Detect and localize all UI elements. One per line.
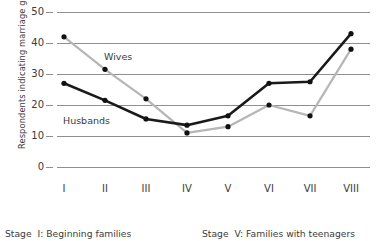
data-point-wives-VII (307, 113, 312, 118)
data-point-wives-VI (266, 102, 271, 107)
caption-stage-i: StageI: Beginning families (5, 228, 131, 239)
data-point-wives-IV (184, 130, 189, 135)
series-label-husbands: Husbands (63, 115, 110, 126)
caption-left-text: I: Beginning families (38, 228, 132, 239)
data-point-wives-VIII (348, 47, 353, 52)
data-point-husbands-III (143, 116, 148, 121)
x-tick-label-vi: VI (254, 184, 284, 194)
data-point-wives-I (61, 34, 66, 39)
plot-area: 50 40 30 20 10 0 I II III IV V VI VII VI… (57, 12, 370, 178)
y-tickmark-50 (46, 12, 53, 13)
series-label-wives: Wives (104, 51, 132, 62)
series-line-husbands (64, 34, 351, 125)
data-point-husbands-V (225, 113, 230, 118)
x-tick-label-iii: III (131, 184, 161, 194)
y-tickmark-30 (46, 74, 53, 75)
y-tick-label-20: 20 (4, 100, 44, 110)
caption-stage-v: StageV: Families with teenagers (202, 228, 355, 239)
data-point-husbands-II (102, 98, 107, 103)
caption-right-stage-word: Stage (202, 228, 229, 239)
x-tick-label-viii: VIII (336, 184, 366, 194)
y-tick-label-40: 40 (4, 38, 44, 48)
x-tick-label-v: V (213, 184, 243, 194)
y-tickmark-10 (46, 136, 53, 137)
y-tick-label-0: 0 (4, 162, 44, 172)
x-tick-label-i: I (49, 184, 79, 194)
data-point-wives-II (102, 67, 107, 72)
data-point-husbands-IV (184, 123, 189, 128)
x-tick-label-ii: II (90, 184, 120, 194)
x-tick-label-vii: VII (295, 184, 325, 194)
data-point-husbands-I (61, 81, 66, 86)
series-lines (57, 12, 370, 178)
x-tick-label-iv: IV (172, 184, 202, 194)
y-tickmark-0 (46, 167, 53, 168)
y-tickmark-20 (46, 105, 53, 106)
data-point-wives-V (225, 124, 230, 129)
y-tick-label-10: 10 (4, 131, 44, 141)
data-point-husbands-VII (307, 79, 312, 84)
data-point-wives-III (143, 96, 148, 101)
caption-left-stage-word: Stage (5, 228, 32, 239)
chart-figure: Respondents indicating marriage going we… (0, 0, 380, 241)
y-tick-label-50: 50 (4, 7, 44, 17)
y-tickmark-40 (46, 43, 53, 44)
data-point-husbands-VI (266, 81, 271, 86)
caption-right-text: V: Families with teenagers (235, 228, 355, 239)
data-point-husbands-VIII (348, 31, 353, 36)
y-tick-label-30: 30 (4, 69, 44, 79)
